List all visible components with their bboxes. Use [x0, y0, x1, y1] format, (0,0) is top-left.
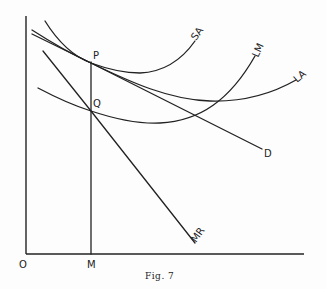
label-point-q: Q [93, 98, 101, 109]
label-m: M [87, 259, 96, 270]
label-d: D [264, 148, 272, 159]
label-mr: MR [189, 225, 207, 244]
label-point-p: P [93, 50, 99, 61]
label-sa: SA [189, 25, 206, 42]
economics-diagram: SA LM LA D MR P Q O M Fig. 7 [0, 0, 326, 289]
label-la: LA [291, 68, 308, 85]
figure-caption: Fig. 7 [145, 271, 174, 281]
label-origin-o: O [19, 259, 27, 270]
long-run-average-curve-la [32, 30, 296, 101]
marginal-revenue-line-mr [43, 51, 195, 243]
short-run-average-curve-sa [45, 21, 195, 73]
long-run-marginal-curve-lm [38, 56, 255, 123]
diagram-canvas: SA LM LA D MR P Q O M Fig. 7 [0, 0, 326, 289]
label-lm: LM [250, 41, 266, 59]
